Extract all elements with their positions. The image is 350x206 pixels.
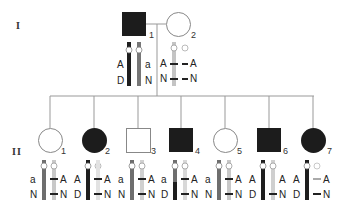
II-6-allele-left-2: D <box>249 190 256 200</box>
I-2-allele-left-2: N <box>160 74 167 84</box>
II-2-allele-left-1: A <box>74 175 81 185</box>
individual-I-1-affected-male-symbol <box>122 12 146 36</box>
individual-II-6-affected-male-symbol <box>257 128 281 152</box>
II-6-allele-left-1: A <box>249 175 256 185</box>
I-2-allele-right-1: A <box>190 59 197 69</box>
II-1-allele-left-1: a <box>30 175 36 185</box>
II-7-allele-right-1: A <box>323 175 330 185</box>
I-1-allele-left-2: D <box>117 76 124 86</box>
II-1-allele-right-1: A <box>60 175 67 185</box>
individual-I-2-unaffected-female-symbol <box>166 12 191 37</box>
II-3-allele-right-1: A <box>148 175 155 185</box>
individual-II-3-unaffected-male-symbol <box>126 128 151 153</box>
II-7-allele-left-2: D <box>293 190 300 200</box>
individual-II-5-number: 5 <box>237 146 242 156</box>
individual-I-2-number: 2 <box>191 30 196 40</box>
II-3-allele-right-2: N <box>148 190 155 200</box>
II-1-allele-left-2: N <box>30 190 37 200</box>
I-2-allele-right-2: N <box>190 74 197 84</box>
II-2-allele-left-2: D <box>74 190 81 200</box>
I-1-allele-left-1: A <box>117 60 124 70</box>
II-4-allele-left-2: D <box>161 190 168 200</box>
individual-II-4-affected-male-symbol <box>169 128 193 152</box>
II-5-allele-left-1: a <box>205 175 211 185</box>
individual-II-1-unaffected-female-symbol <box>38 128 63 153</box>
II-5-allele-left-2: N <box>205 190 212 200</box>
II-4-allele-right-2: N <box>191 190 198 200</box>
II-5-allele-right-2: N <box>235 190 242 200</box>
individual-II-2-number: 2 <box>105 146 110 156</box>
individual-II-1-number: 1 <box>61 146 66 156</box>
II-1-allele-right-2: N <box>60 190 67 200</box>
II-5-allele-right-1: A <box>235 175 242 185</box>
II-4-allele-right-1: A <box>191 175 198 185</box>
I-2-allele-left-1: A <box>160 59 167 69</box>
individual-I-1-number: 1 <box>149 30 154 40</box>
I-1-allele-right-1: a <box>145 60 151 70</box>
II-4-allele-left-1: a <box>161 175 167 185</box>
generation-label-II: II <box>12 146 22 157</box>
II-6-allele-right-1: A <box>279 175 286 185</box>
II-2-allele-right-2: N <box>104 190 111 200</box>
individual-II-5-unaffected-female-symbol <box>213 128 238 153</box>
II-3-allele-left-2: N <box>118 190 125 200</box>
II-2-allele-right-1: A <box>104 175 111 185</box>
individual-II-7-affected-female-symbol <box>301 128 326 153</box>
generation-label-I: I <box>16 20 21 31</box>
individual-II-3-number: 3 <box>151 146 156 156</box>
I-1-allele-right-2: N <box>145 76 152 86</box>
individual-II-4-number: 4 <box>195 146 200 156</box>
II-7-allele-left-1: A <box>293 175 300 185</box>
II-7-allele-right-2: N <box>323 190 330 200</box>
individual-II-2-affected-female-symbol <box>82 128 107 153</box>
II-6-allele-right-2: N <box>279 190 286 200</box>
individual-II-7-number: 7 <box>327 146 332 156</box>
individual-II-6-number: 6 <box>283 146 288 156</box>
II-3-allele-left-1: a <box>118 175 124 185</box>
